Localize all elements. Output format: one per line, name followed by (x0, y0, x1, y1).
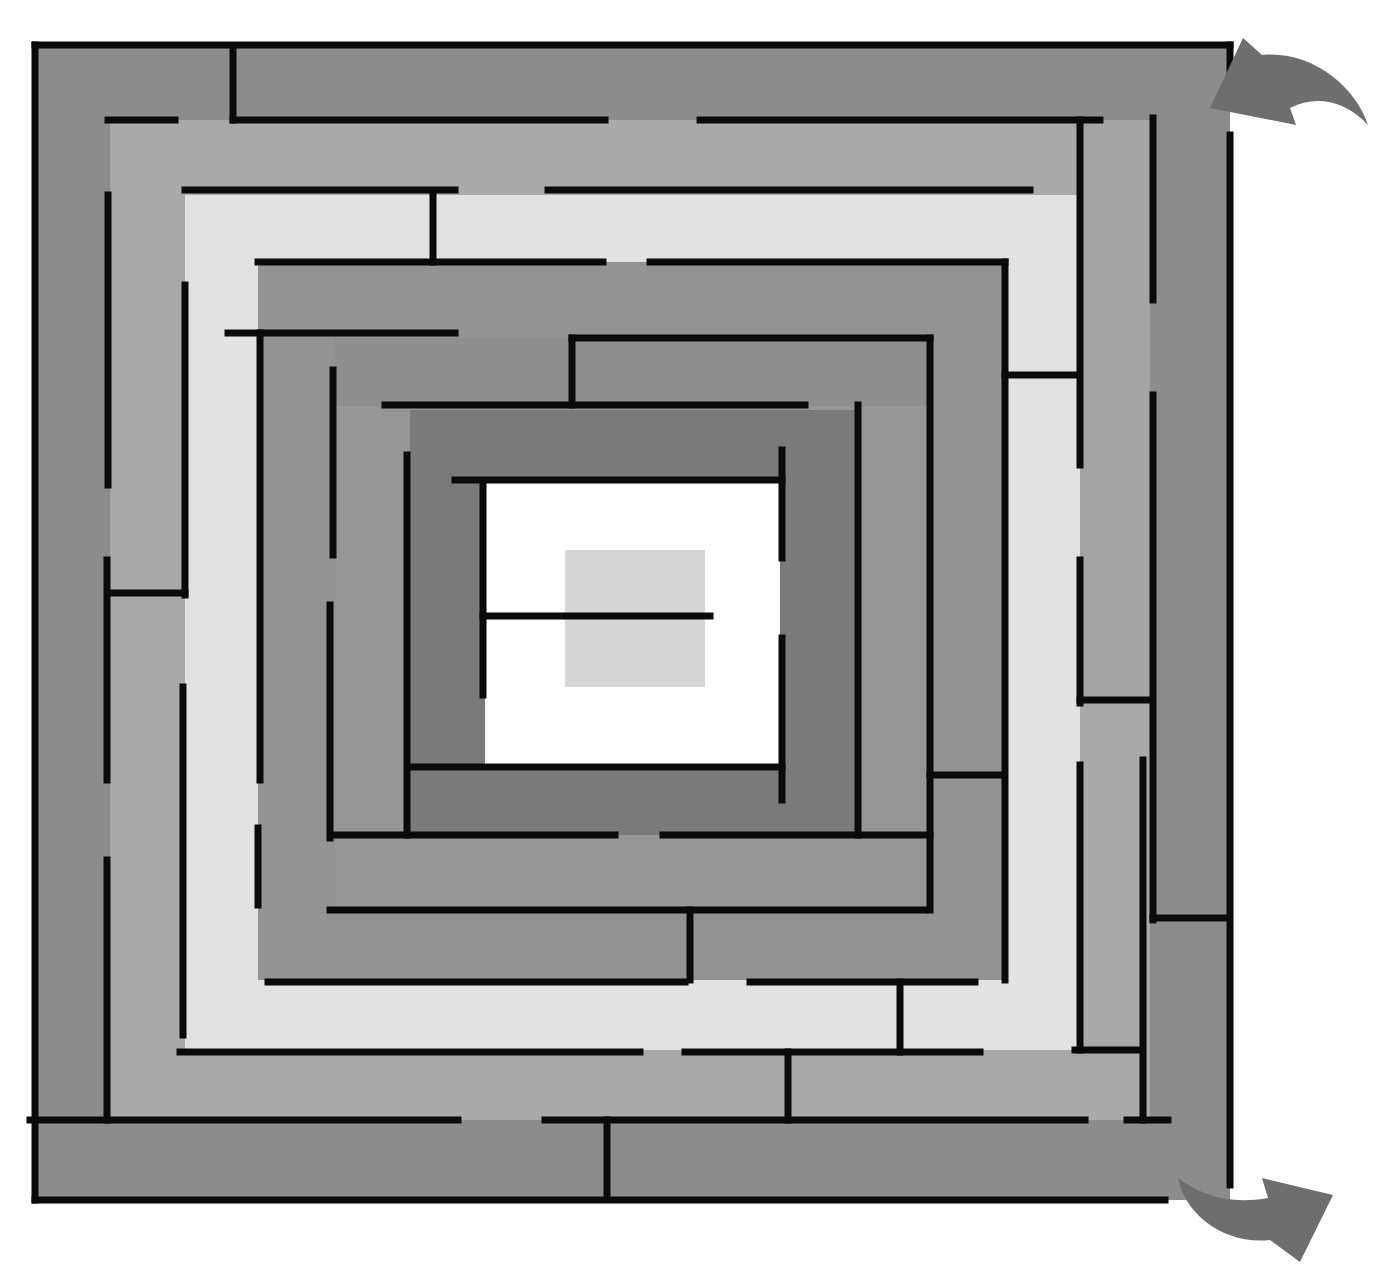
maze-canvas (0, 0, 1384, 1272)
entrance-arrow-icon (1210, 38, 1368, 125)
ring-4-top-dark-band (335, 338, 930, 406)
ring-3-right-light-band (1005, 375, 1080, 975)
ring-1-right-strip-band (1080, 120, 1150, 700)
maze-diagram (0, 0, 1384, 1272)
maze-rings (35, 45, 1230, 1200)
